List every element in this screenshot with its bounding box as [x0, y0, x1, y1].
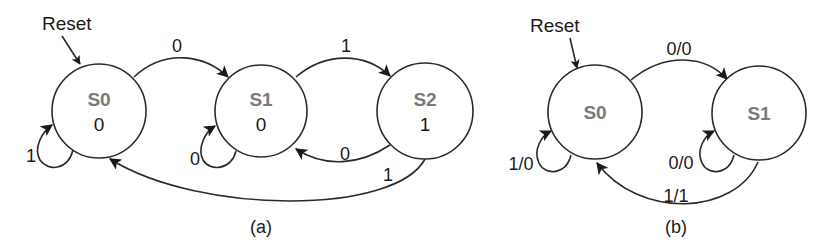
state-s0-a: S0 0: [52, 64, 146, 158]
edge-label-s0-s1-a: 0: [172, 36, 182, 56]
edge-label-s1-s1-a: 0: [190, 149, 200, 169]
state-name: S2: [413, 89, 436, 110]
edge-label-s1-s2-a: 1: [341, 36, 351, 56]
edge-label-s2-s0-a: 1: [383, 165, 393, 185]
reset-arrow-b: [570, 38, 577, 68]
state-s1-a: S1 0: [215, 65, 307, 157]
reset-label-a: Reset: [42, 13, 92, 34]
state-name: S1: [747, 103, 771, 124]
edge-s2-s0-a: [110, 159, 425, 201]
edge-s0-s1-b: [631, 60, 727, 80]
state-s0-b: S0: [548, 65, 642, 159]
edge-label-s0-s0-a: 1: [26, 146, 36, 166]
reset-label-b: Reset: [530, 15, 580, 36]
diagram-b: Reset 0/0 1/1 1/0 0/0 S0 S1 (b): [508, 15, 806, 237]
state-name: S0: [583, 102, 606, 123]
edge-s1-s2-a: [296, 58, 390, 77]
state-s1-b: S1: [712, 66, 806, 160]
state-name: S1: [249, 89, 273, 110]
state-s2-a: S2 1: [377, 63, 473, 159]
reset-arrow-a: [62, 36, 80, 64]
edge-s0-s1-a: [134, 58, 228, 77]
edge-label-s0-s0-b: 1/0: [508, 154, 533, 174]
state-output: 0: [256, 114, 267, 135]
edge-label-s1-s1-b: 0/0: [668, 153, 693, 173]
state-output: 1: [420, 114, 431, 135]
state-diagrams: Reset 0 1 0 1 1 0 S0 0 S1 0: [0, 0, 823, 252]
edge-label-s2-s1-a: 0: [340, 144, 350, 164]
diagram-a: Reset 0 1 0 1 1 0 S0 0 S1 0: [26, 13, 473, 237]
caption-b: (b): [665, 217, 687, 237]
edge-label-s1-s0-b: 1/1: [663, 186, 688, 206]
state-output: 0: [94, 114, 105, 135]
edge-label-s0-s1-b: 0/0: [666, 39, 691, 59]
caption-a: (a): [250, 217, 272, 237]
state-name: S0: [87, 89, 110, 110]
